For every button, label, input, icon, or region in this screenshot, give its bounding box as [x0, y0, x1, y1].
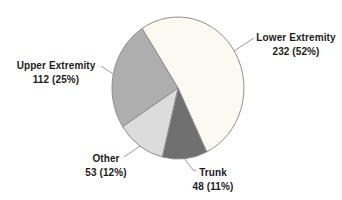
slice-label-upper-extremity: Upper Extremity 112 (25%)	[11, 59, 101, 87]
slice-label-lower-extremity: Lower Extremity 232 (52%)	[250, 31, 342, 59]
slice-label-trunk: Trunk 48 (11%)	[173, 166, 253, 194]
slice-label-trunk-value: 48 (11%)	[173, 180, 253, 194]
slice-label-upper-extremity-value: 112 (25%)	[11, 73, 101, 87]
pie-chart-figure: Lower Extremity 232 (52%) Upper Extremit…	[0, 0, 342, 200]
leader-line-upper-extremity	[101, 66, 113, 74]
slice-label-lower-extremity-name: Lower Extremity	[256, 32, 335, 43]
pie-chart-canvas	[0, 0, 342, 200]
slice-label-lower-extremity-value: 232 (52%)	[250, 45, 342, 59]
slice-label-trunk-name: Trunk	[199, 167, 227, 178]
slice-label-other: Other 53 (12%)	[66, 152, 146, 180]
slice-label-upper-extremity-name: Upper Extremity	[17, 60, 96, 71]
slice-label-other-value: 53 (12%)	[66, 166, 146, 180]
slice-label-other-name: Other	[92, 153, 119, 164]
pie-slices-group	[112, 17, 244, 159]
